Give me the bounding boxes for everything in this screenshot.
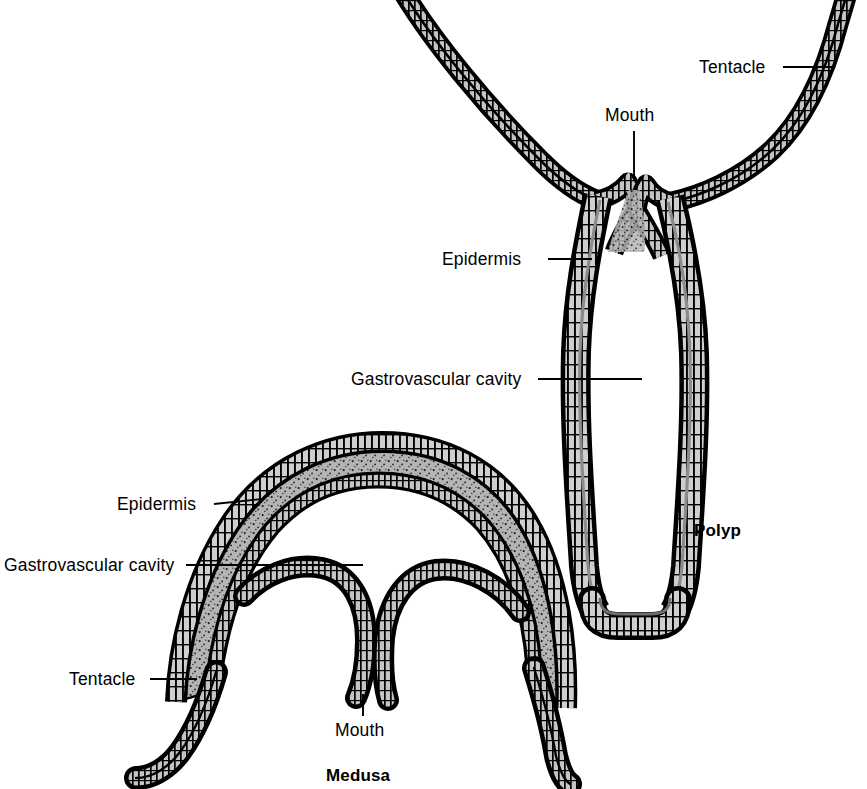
polyp-basal-disc — [592, 598, 678, 626]
medusa-manubrium-left — [244, 567, 366, 698]
leader-lines — [150, 67, 835, 716]
label-polyp-tentacle: Tentacle — [699, 57, 765, 78]
medusa-manubrium-right — [383, 569, 520, 700]
caption-polyp: Polyp — [694, 521, 741, 541]
polyp-tentacle-left — [396, 0, 596, 200]
polyp-tentacle-right — [672, 0, 852, 202]
caption-medusa: Medusa — [326, 766, 390, 786]
label-medusa-mouth: Mouth — [335, 720, 384, 741]
label-medusa-gastrovascular-cavity: Gastrovascular cavity — [4, 555, 174, 576]
polyp-gastrovascular-lumen — [597, 196, 678, 600]
label-polyp-mouth: Mouth — [605, 105, 654, 126]
polyp-organism — [396, 0, 852, 626]
label-polyp-gastrovascular-cavity: Gastrovascular cavity — [351, 369, 521, 390]
label-medusa-tentacle: Tentacle — [69, 669, 135, 690]
label-polyp-epidermis: Epidermis — [442, 249, 521, 270]
label-medusa-epidermis: Epidermis — [117, 494, 196, 515]
